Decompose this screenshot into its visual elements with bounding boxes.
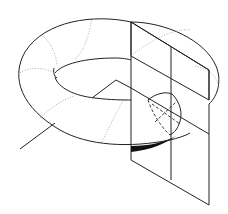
torus-inner-hole-top (55, 58, 131, 73)
pointer-line (20, 123, 55, 149)
torus-plane-diagram (0, 0, 228, 214)
cross-section-circle (148, 93, 181, 135)
torus-inner-hole-bottom (55, 77, 131, 100)
cutting-plane-back (131, 22, 209, 100)
diagram-svg (0, 0, 228, 214)
inner-wedge (92, 80, 131, 98)
torus-outer-silhouette (19, 19, 190, 145)
